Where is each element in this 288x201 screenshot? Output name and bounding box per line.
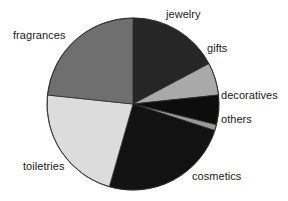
- pie-chart: jewelrygiftsdecorativesotherscosmeticsto…: [0, 0, 288, 201]
- pie-label-cosmetics: cosmetics: [192, 170, 241, 182]
- pie-label-gifts: gifts: [207, 42, 227, 54]
- pie-label-toiletries: toiletries: [23, 160, 64, 172]
- pie-label-jewelry: jewelry: [166, 8, 201, 20]
- pie-label-fragrances: fragrances: [13, 29, 65, 41]
- pie-label-decoratives: decoratives: [221, 89, 278, 101]
- pie-label-others: others: [221, 113, 252, 125]
- pie-slices-group: [47, 18, 219, 190]
